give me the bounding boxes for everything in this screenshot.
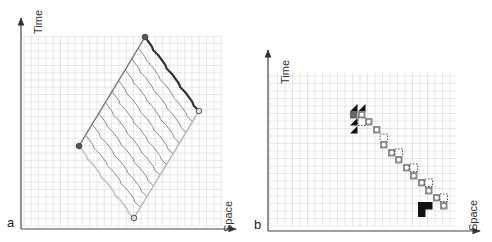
panel-b-time-label: Time (279, 60, 291, 84)
endpoint-top (142, 34, 148, 40)
panel-b-letter: b (254, 217, 261, 232)
panel-b-space-label: Space (467, 200, 479, 231)
panel-a-time-label: Time (32, 10, 44, 34)
figure (0, 0, 492, 242)
endpoint-left (76, 143, 82, 149)
panel-a-space-label: Space (222, 201, 234, 232)
panel-a-grid (24, 36, 222, 226)
endpoint-bottom (131, 215, 137, 221)
panel-a-letter: a (7, 215, 14, 230)
endpoint-right (196, 108, 202, 114)
